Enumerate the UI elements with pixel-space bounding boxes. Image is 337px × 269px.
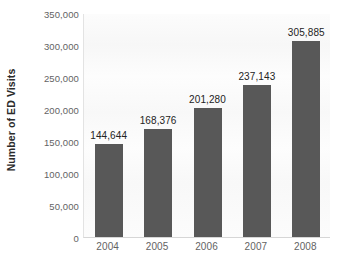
x-axis-tick-2006: 2006 [184, 241, 230, 252]
x-axis-tick-2004: 2004 [85, 241, 131, 252]
y-axis-tick-100000: 100,000 [44, 169, 79, 180]
bar-value-label: 168,376 [140, 115, 177, 126]
y-axis-title: Number of ED Visits [0, 0, 22, 240]
y-axis-tick-150000: 150,000 [44, 137, 79, 148]
y-axis-tick-0: 0 [74, 233, 79, 244]
y-axis-tick-50000: 50,000 [49, 201, 79, 212]
x-axis-tick-labels: 20042005200620072008 [83, 241, 330, 261]
bar-2005[interactable] [144, 129, 172, 237]
bar-chart-figure: Number of ED Visits 050,000100,000150,00… [0, 0, 337, 269]
bar-value-label: 201,280 [189, 94, 226, 105]
bar-value-label: 305,885 [288, 27, 325, 38]
y-axis-tick-200000: 200,000 [44, 105, 79, 116]
x-axis-tick-2007: 2007 [233, 241, 279, 252]
y-axis-tick-labels: 050,000100,000150,000200,000250,000300,0… [22, 0, 81, 245]
bar-2006[interactable] [194, 108, 222, 237]
y-axis-tick-300000: 300,000 [44, 41, 79, 52]
x-axis-tick-2008: 2008 [282, 241, 328, 252]
bar-2008[interactable] [292, 41, 320, 237]
bar-value-label: 237,143 [238, 71, 275, 82]
y-axis-tick-350000: 350,000 [44, 9, 79, 20]
bar-group: 168,376 [135, 14, 181, 237]
bar-group: 237,143 [234, 14, 280, 237]
bar-group: 144,644 [86, 14, 132, 237]
plot-area: 144,644168,376201,280237,143305,885 [83, 14, 330, 238]
bar-group: 201,280 [185, 14, 231, 237]
y-axis-tick-250000: 250,000 [44, 73, 79, 84]
bar-group: 305,885 [283, 14, 329, 237]
bar-2007[interactable] [243, 85, 271, 237]
bars-layer: 144,644168,376201,280237,143305,885 [84, 14, 330, 237]
y-axis-title-text: Number of ED Visits [5, 69, 17, 172]
bar-value-label: 144,644 [90, 130, 127, 141]
x-axis-tick-2005: 2005 [134, 241, 180, 252]
bar-2004[interactable] [95, 144, 123, 237]
